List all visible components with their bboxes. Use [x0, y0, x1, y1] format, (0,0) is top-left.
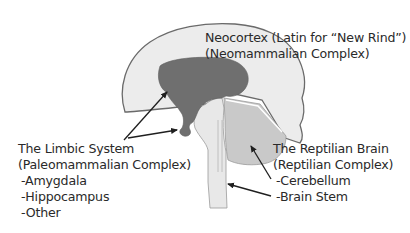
- neocortex-title: Neocortex (Latin for “New Rind”): [205, 30, 406, 46]
- limbic-item-hippocampus: -Hippocampus: [18, 189, 191, 205]
- limbic-title: The Limbic System: [18, 141, 191, 157]
- neocortex-subtitle: (Neomammalian Complex): [205, 46, 406, 62]
- limbic-item-other: -Other: [18, 205, 191, 221]
- reptilian-item-brainstem: -Brain Stem: [273, 189, 393, 205]
- reptilian-label: The Reptilian Brain (Reptilian Complex) …: [273, 141, 393, 205]
- arrow-to-brainstem: [228, 184, 271, 196]
- reptilian-title: The Reptilian Brain: [273, 141, 393, 157]
- reptilian-item-cerebellum: -Cerebellum: [273, 173, 393, 189]
- reptilian-subtitle: (Reptilian Complex): [273, 157, 393, 173]
- limbic-item-amygdala: -Amygdala: [18, 173, 191, 189]
- limbic-subtitle: (Paleomammalian Complex): [18, 157, 191, 173]
- triune-brain-diagram: Neocortex (Latin for “New Rind”) (Neomam…: [0, 0, 410, 233]
- neocortex-label: Neocortex (Latin for “New Rind”) (Neomam…: [205, 30, 406, 62]
- limbic-label: The Limbic System (Paleomammalian Comple…: [18, 141, 191, 221]
- arrow-to-limbic-amygdala: [128, 130, 177, 138]
